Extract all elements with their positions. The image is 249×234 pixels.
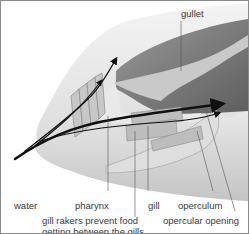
label-gullet: gullet [181, 8, 204, 19]
label-gill-rakers-line2: getting between the gills [42, 226, 144, 234]
label-opercular-opening: opercular opening [163, 215, 239, 226]
fish-head-illustration [1, 1, 248, 233]
label-pharynx: pharynx [75, 200, 109, 211]
diagram-frame: gullet water pharynx gill operculum gill… [0, 0, 249, 234]
label-gill-rakers-line1: gill rakers prevent food [42, 215, 138, 226]
label-gill: gill [148, 200, 160, 211]
label-water: water [14, 200, 37, 211]
label-operculum: operculum [178, 200, 222, 211]
